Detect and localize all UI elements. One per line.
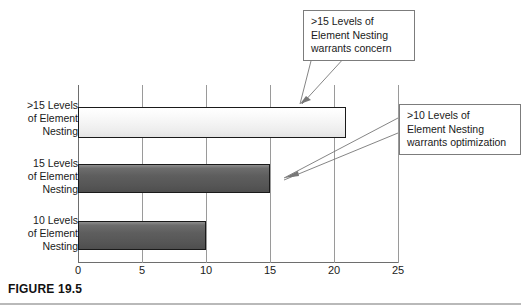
y-label-line: Nesting [8,183,78,196]
y-label-15-levels: 15 Levels of Element Nesting [8,157,78,196]
y-label-line: of Element [8,170,78,183]
callout-line: warrants concern [311,42,408,56]
y-label-line: >15 Levels [8,99,78,112]
callout-line: >15 Levels of [311,15,408,29]
x-axis-line [78,262,399,263]
bar-gt15-levels [78,107,346,138]
y-label-line: of Element [8,227,78,240]
callout-line: Element Nesting [407,123,514,137]
y-label-gt15-levels: >15 Levels of Element Nesting [8,99,78,138]
x-tick-5: 5 [127,264,157,276]
footer-divider [0,303,521,305]
callout-warrants-optimization: >10 Levels of Element Nesting warrants o… [399,104,521,155]
y-label-line: Nesting [8,240,78,253]
y-label-line: 10 Levels [8,214,78,227]
bar-10-levels [78,221,206,250]
x-tick-15: 15 [255,264,285,276]
x-tick-25: 25 [383,264,413,276]
figure-caption: FIGURE 19.5 [8,282,82,296]
x-tick-20: 20 [319,264,349,276]
y-label-line: of Element [8,112,78,125]
callout-line: warrants optimization [407,136,514,150]
bar-chart: >15 Levels of Element Nesting 15 Levels … [0,0,521,276]
y-label-line: Nesting [8,125,78,138]
figure-19-5: >15 Levels of Element Nesting 15 Levels … [0,0,521,308]
callout-line: >10 Levels of [407,109,514,123]
x-tick-10: 10 [191,264,221,276]
y-label-line: 15 Levels [8,157,78,170]
bar-15-levels [78,164,270,193]
x-tick-0: 0 [63,264,93,276]
callout-line: Element Nesting [311,29,408,43]
y-label-10-levels: 10 Levels of Element Nesting [8,214,78,253]
callout-warrants-concern: >15 Levels of Element Nesting warrants c… [303,10,415,61]
